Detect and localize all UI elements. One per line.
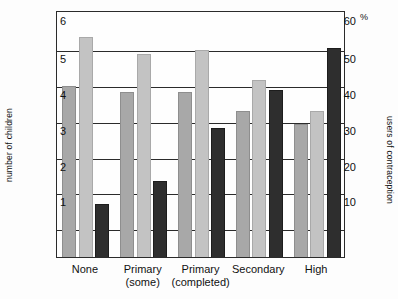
bar-4-series-2 [252,80,266,257]
left-tick-3: 3 [60,126,66,137]
bar-5-series-1 [294,124,308,257]
bar-1-series-2 [79,37,93,257]
bar-2-series-3 [153,181,167,257]
bar-5-series-2 [310,111,324,257]
left-axis-title: number of children [4,108,14,182]
right-tick-60: 60 [334,16,356,27]
bar-3-series-1 [178,92,192,257]
bar-3-series-2 [195,50,209,257]
left-tick-5: 5 [60,54,66,65]
right-tick-20: 20 [334,162,356,173]
category-label-line1: Secondary [232,263,285,275]
bar-3-series-3 [211,128,225,257]
right-tick-30: 30 [334,126,356,137]
bar-2-series-1 [120,92,134,257]
category-label-1: None [56,263,114,276]
bar-2-series-2 [137,54,151,257]
right-tick-10: 10 [334,197,356,208]
category-label-line1: High [305,263,328,275]
plot-area [56,11,345,258]
category-label-2: Primary(some) [114,263,172,289]
bar-4-series-1 [236,111,250,257]
right-axis-title: users of contraception [385,116,395,204]
bar-1-series-3 [95,204,109,257]
chart-figure: number of children users of contraceptio… [0,0,398,299]
category-label-line1: Primary [124,263,162,275]
category-label-4: Secondary [229,263,287,276]
left-tick-1: 1 [60,197,66,208]
category-label-line1: None [72,263,98,275]
bar-4-series-3 [269,90,283,257]
category-label-line2: (some) [114,276,172,289]
left-tick-6: 6 [60,16,66,27]
left-tick-4: 4 [60,90,66,101]
right-tick-50: 50 [334,54,356,65]
category-label-3: Primary(completed) [172,263,230,289]
category-label-line1: Primary [182,263,220,275]
right-tick-40: 40 [334,90,356,101]
percent-symbol: % [360,12,368,22]
category-label-5: High [287,263,345,276]
left-tick-2: 2 [60,162,66,173]
bar-5-series-3 [327,48,341,257]
category-label-line2: (completed) [172,276,230,289]
